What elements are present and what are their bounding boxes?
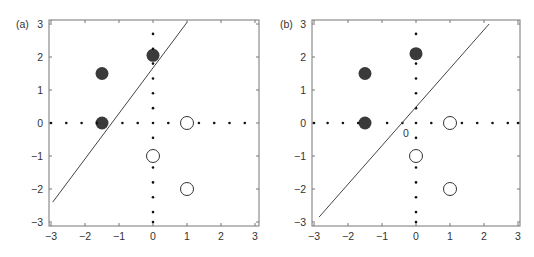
- grid-dot: [357, 122, 360, 125]
- y-tick-label: 0: [37, 117, 43, 129]
- grid-dot: [415, 77, 418, 80]
- chart-panel-b: −3−2−101233210−1−2−3(b)0: [280, 18, 521, 242]
- grid-dot: [152, 196, 155, 199]
- grid-dot: [244, 122, 247, 125]
- filled-point: [96, 67, 109, 80]
- y-tick-label: −1: [31, 150, 43, 162]
- y-tick-label: −2: [31, 183, 43, 195]
- grid-dot: [507, 122, 510, 125]
- x-tick-label: −2: [79, 230, 91, 242]
- grid-dot: [415, 221, 418, 224]
- x-tick-label: 3: [515, 230, 521, 242]
- y-tick-label: −3: [31, 216, 43, 228]
- y-tick-label: −2: [294, 183, 306, 195]
- grid-dot: [152, 137, 155, 140]
- open-point: [147, 150, 160, 163]
- grid-dot: [152, 221, 155, 224]
- open-point: [410, 150, 423, 163]
- grid-dot: [415, 166, 418, 169]
- grid-dot: [152, 92, 155, 95]
- grid-dot: [167, 122, 170, 125]
- y-tick-label: −1: [294, 150, 306, 162]
- grid-dot: [152, 107, 155, 110]
- x-tick-label: −1: [376, 230, 388, 242]
- grid-dot: [152, 166, 155, 169]
- grid-dot: [461, 122, 464, 125]
- grid-dot: [476, 122, 479, 125]
- grid-dot: [415, 92, 418, 95]
- grid-dot: [152, 122, 155, 125]
- grid-dot: [50, 122, 53, 125]
- grid-dot: [326, 122, 329, 125]
- panel-label: (a): [16, 18, 29, 30]
- chart-figure: −3−2−101233210−1−2−3(a)−3−2−101233210−1−…: [0, 0, 534, 257]
- grid-dot: [415, 137, 418, 140]
- y-tick-label: 0: [300, 117, 306, 129]
- filled-point: [359, 117, 372, 130]
- decision-boundary-line: [53, 22, 187, 202]
- grid-dot: [80, 122, 83, 125]
- grid-dot: [121, 122, 124, 125]
- grid-dot: [415, 181, 418, 184]
- x-tick-label: 0: [150, 230, 156, 242]
- x-tick-label: −3: [308, 230, 320, 242]
- filled-point: [147, 49, 160, 62]
- grid-dot: [152, 181, 155, 184]
- grid-dot: [152, 211, 155, 214]
- grid-dot: [152, 33, 155, 36]
- grid-dot: [152, 62, 155, 65]
- x-tick-label: 1: [447, 230, 453, 242]
- y-tick-label: 3: [300, 18, 306, 30]
- panel-label: (b): [280, 18, 293, 30]
- grid-dot: [65, 122, 68, 125]
- grid-dot: [517, 122, 520, 125]
- x-tick-label: −1: [113, 230, 125, 242]
- grid-dot: [415, 33, 418, 36]
- grid-dot: [415, 122, 418, 125]
- grid-dot: [342, 122, 345, 125]
- open-point: [444, 117, 457, 130]
- x-tick-label: 2: [218, 230, 224, 242]
- grid-dot: [415, 62, 418, 65]
- x-tick-label: 2: [481, 230, 487, 242]
- grid-dot: [415, 196, 418, 199]
- x-tick-label: 0: [413, 230, 419, 242]
- y-tick-label: 2: [300, 51, 306, 63]
- grid-dot: [136, 122, 139, 125]
- grid-dot: [152, 77, 155, 80]
- filled-point: [410, 47, 423, 60]
- grid-dot: [198, 122, 201, 125]
- decision-boundary-line: [319, 24, 489, 217]
- chart-panel-a: −3−2−101233210−1−2−3(a): [16, 18, 259, 242]
- y-tick-label: −3: [294, 216, 306, 228]
- open-point: [181, 117, 194, 130]
- y-tick-label: 1: [37, 84, 43, 96]
- grid-dot: [213, 122, 216, 125]
- x-tick-label: 1: [184, 230, 190, 242]
- y-tick-label: 3: [37, 18, 43, 30]
- y-tick-label: 2: [37, 51, 43, 63]
- grid-dot: [415, 211, 418, 214]
- grid-dot: [491, 122, 494, 125]
- filled-point: [359, 67, 372, 80]
- open-point: [181, 183, 194, 196]
- grid-dot: [96, 122, 99, 125]
- x-tick-label: −2: [342, 230, 354, 242]
- y-tick-label: 1: [300, 84, 306, 96]
- grid-dot: [152, 47, 155, 50]
- grid-dot: [430, 122, 433, 125]
- grid-dot: [313, 122, 316, 125]
- x-tick-label: −3: [45, 230, 57, 242]
- origin-annotation: 0: [403, 127, 409, 139]
- grid-dot: [386, 122, 389, 125]
- open-point: [444, 183, 457, 196]
- x-tick-label: 3: [252, 230, 258, 242]
- grid-dot: [228, 122, 231, 125]
